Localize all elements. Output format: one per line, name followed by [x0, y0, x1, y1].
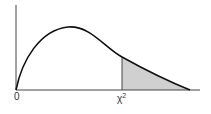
origin-label: 0: [14, 92, 20, 102]
critical-value-label: χ2: [117, 94, 126, 104]
critical-value-exponent: 2: [122, 92, 126, 99]
chi-square-diagram: [0, 0, 211, 114]
